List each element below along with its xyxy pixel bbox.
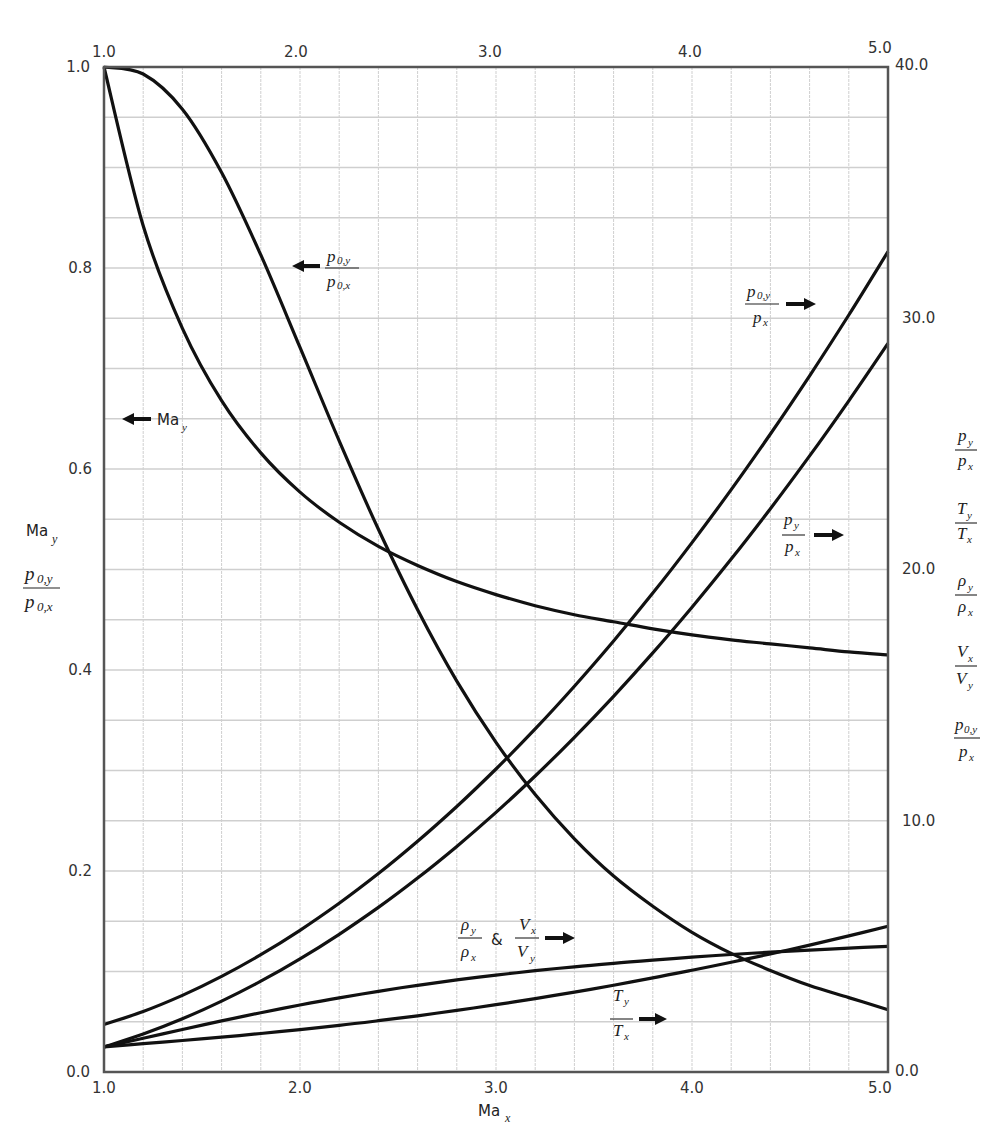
x-axis-top-ticks: 1.0 2.0 3.0 4.0 5.0	[92, 39, 892, 61]
x-tick: 1.0	[92, 1079, 116, 1097]
annotation-ma-y: Ma y	[122, 411, 187, 433]
svg-text:y: y	[529, 952, 535, 964]
svg-text:x: x	[968, 751, 974, 763]
frac-num-sub: 0,y	[37, 571, 53, 586]
left-axis-ticks: 0.0 0.2 0.4 0.6 0.8 1.0	[66, 58, 92, 1081]
svg-text:T: T	[613, 1021, 624, 1040]
svg-text:y: y	[470, 924, 476, 936]
left-axis-title-p0-ratio: p 0,y p 0,x	[23, 563, 60, 614]
left-tick: 1.0	[66, 58, 90, 76]
svg-text:x: x	[470, 951, 476, 963]
x-tick: 4.0	[680, 1079, 704, 1097]
svg-text:x: x	[967, 460, 973, 472]
left-tick: 0.8	[68, 259, 92, 277]
svg-text:x: x	[967, 606, 973, 618]
right-tick: 0.0	[895, 1062, 919, 1080]
right-tick: 10.0	[902, 812, 935, 830]
svg-text:p: p	[326, 247, 336, 266]
x-top-tick: 1.0	[92, 43, 116, 61]
svg-text:y: y	[793, 519, 799, 531]
x-top-tick: 4.0	[678, 43, 702, 61]
svg-text:V: V	[517, 942, 530, 961]
right-axis-title-p0y-px: p 0,y p x	[954, 715, 980, 763]
right-axis-title-py-px: p y p x	[955, 426, 977, 472]
svg-text:p: p	[752, 308, 762, 327]
svg-text:p: p	[326, 272, 336, 291]
frac-num: p	[23, 563, 35, 584]
svg-text:y: y	[967, 436, 973, 448]
grid	[104, 67, 888, 1072]
svg-text:y: y	[967, 581, 973, 593]
svg-text:ρ: ρ	[460, 915, 469, 934]
x-axis-bottom-ticks: 1.0 2.0 3.0 4.0 5.0	[92, 1079, 892, 1097]
right-axis-ticks: 0.0 10.0 20.0 30.0 40.0	[895, 56, 935, 1080]
annotation-py-px: p y p x	[782, 510, 844, 558]
svg-text:p: p	[783, 510, 793, 529]
arrow-right-icon	[545, 932, 575, 944]
left-tick: 0.6	[68, 460, 92, 478]
x-top-tick: 3.0	[478, 43, 502, 61]
annotation-p0y-p0x: p 0,y p 0,x	[292, 247, 359, 291]
x-tick: 5.0	[868, 1079, 892, 1097]
svg-text:Ma: Ma	[157, 411, 179, 429]
svg-text:y: y	[623, 995, 629, 1007]
svg-text:0,y: 0,y	[757, 289, 770, 301]
svg-text:0,x: 0,x	[337, 279, 350, 291]
svg-text:x: x	[762, 316, 768, 328]
x-top-tick: 5.0	[868, 39, 892, 57]
x-tick: 2.0	[288, 1079, 312, 1097]
x-tick: 3.0	[484, 1079, 508, 1097]
svg-text:0,y: 0,y	[964, 723, 977, 735]
svg-text:ρ: ρ	[957, 571, 966, 590]
svg-text:0,y: 0,y	[337, 254, 350, 266]
left-tick: 0.4	[68, 661, 92, 679]
svg-text:&: &	[491, 931, 503, 949]
svg-text:p: p	[958, 742, 968, 761]
frac-den: p	[23, 591, 35, 612]
x-top-tick: 2.0	[284, 43, 308, 61]
frac-den-sub: 0,x	[37, 599, 53, 614]
left-axis-title-ma-y: Ma y	[26, 522, 58, 546]
annotation-ty-tx: T y T x	[610, 986, 667, 1042]
left-axis-title-sub: y	[51, 532, 58, 546]
left-tick: 0.2	[68, 862, 92, 880]
svg-text:p: p	[784, 537, 794, 556]
x-axis-title: Ma x	[478, 1102, 511, 1125]
svg-text:T: T	[613, 986, 624, 1005]
svg-text:p: p	[746, 282, 756, 301]
right-axis-title-ty-tx: T y T x	[955, 499, 977, 545]
svg-text:ρ: ρ	[460, 942, 469, 961]
svg-text:y: y	[181, 421, 187, 433]
svg-text:y: y	[966, 509, 972, 521]
svg-text:x: x	[794, 546, 800, 558]
arrow-left-icon	[122, 413, 151, 425]
svg-text:x: x	[530, 924, 536, 936]
svg-text:p: p	[954, 715, 964, 734]
right-axis-title-rho: ρ y ρ x	[955, 571, 977, 618]
svg-text:x: x	[623, 1030, 629, 1042]
arrow-right-icon	[786, 298, 816, 310]
annotation-rho-vel: ρ y ρ x & V x V y	[458, 915, 575, 964]
arrow-left-icon	[292, 260, 320, 272]
left-tick: 0.0	[66, 1063, 90, 1081]
svg-text:x: x	[966, 533, 972, 545]
right-tick: 30.0	[902, 309, 935, 327]
svg-text:p: p	[957, 451, 967, 470]
right-tick: 40.0	[895, 56, 928, 74]
svg-text:x: x	[967, 652, 973, 664]
svg-text:x: x	[504, 1111, 511, 1125]
svg-text:p: p	[957, 426, 967, 445]
left-axis-title-base: Ma	[26, 522, 48, 540]
annotation-p0y-px: p 0,y p x	[745, 282, 816, 328]
arrow-right-icon	[814, 529, 844, 541]
x-axis-title-base: Ma	[478, 1102, 500, 1120]
normal-shock-chart: 1.0 2.0 3.0 4.0 5.0 1.0 2.0 3.0 4.0 5.0 …	[0, 0, 994, 1138]
right-tick: 20.0	[902, 560, 935, 578]
svg-text:ρ: ρ	[957, 597, 966, 616]
right-axis-title-vel: V x V y	[955, 642, 977, 691]
svg-text:y: y	[967, 679, 973, 691]
